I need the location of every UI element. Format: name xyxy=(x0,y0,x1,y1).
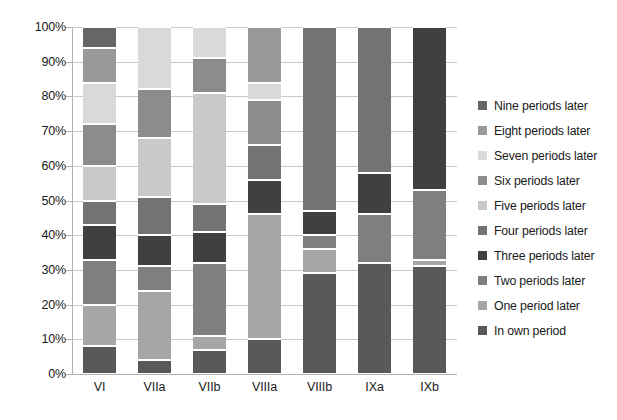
bar-segment[interactable] xyxy=(248,214,281,339)
bar-segment[interactable] xyxy=(358,214,391,263)
legend-label: Five periods later xyxy=(494,199,586,213)
legend-item[interactable]: Nine periods later xyxy=(478,93,617,118)
chart-legend: Nine periods laterEight periods laterSev… xyxy=(478,93,617,343)
y-tick-label-50: 50% xyxy=(42,194,66,208)
bar-segment[interactable] xyxy=(303,249,336,273)
bar-segment[interactable] xyxy=(83,346,116,374)
bar-segment[interactable] xyxy=(138,266,171,290)
bar-segment[interactable] xyxy=(193,336,226,350)
y-tick-label-70: 70% xyxy=(42,124,66,138)
y-tickmark-50 xyxy=(66,201,72,202)
bar-segment[interactable] xyxy=(413,266,446,374)
bar-VIIa[interactable] xyxy=(138,27,171,374)
bar-segment[interactable] xyxy=(303,273,336,374)
legend-label: Two periods later xyxy=(494,274,585,288)
bar-segment[interactable] xyxy=(303,211,336,235)
bar-segment[interactable] xyxy=(138,360,171,374)
bar-segment[interactable] xyxy=(83,201,116,225)
bar-VI[interactable] xyxy=(83,27,116,374)
y-tickmark-40 xyxy=(66,235,72,236)
bar-segment[interactable] xyxy=(193,232,226,263)
bar-segment[interactable] xyxy=(248,27,281,83)
bar-segment[interactable] xyxy=(358,173,391,215)
legend-label: Three periods later xyxy=(494,249,594,263)
bar-segment[interactable] xyxy=(193,204,226,232)
bar-segment[interactable] xyxy=(83,83,116,125)
bar-segment[interactable] xyxy=(193,350,226,374)
legend-swatch-icon xyxy=(478,176,487,185)
legend-item[interactable]: One period later xyxy=(478,293,617,318)
legend-swatch-icon xyxy=(478,301,487,310)
x-axis-tick-labels: VIVIIaVIIbVIIIaVIIIbIXaIXb xyxy=(72,380,457,406)
x-tick-label-VIIa: VIIa xyxy=(144,380,166,394)
legend-item[interactable]: Six periods later xyxy=(478,168,617,193)
x-tick-label-VIIIb: VIIIb xyxy=(307,380,332,394)
legend-item[interactable]: Two periods later xyxy=(478,268,617,293)
bar-segment[interactable] xyxy=(248,339,281,374)
bar-segment[interactable] xyxy=(303,27,336,211)
y-tickmark-30 xyxy=(66,270,72,271)
bar-segment[interactable] xyxy=(193,58,226,93)
y-tick-label-10: 10% xyxy=(42,332,66,346)
x-tick-label-VIIb: VIIb xyxy=(199,380,221,394)
bar-VIIIa[interactable] xyxy=(248,27,281,374)
legend-item[interactable]: Eight periods later xyxy=(478,118,617,143)
x-tick-label-IXb: IXb xyxy=(420,380,438,394)
y-tickmark-100 xyxy=(66,27,72,28)
bar-segment[interactable] xyxy=(83,166,116,201)
legend-item[interactable]: Seven periods later xyxy=(478,143,617,168)
y-tickmark-90 xyxy=(66,62,72,63)
bar-segment[interactable] xyxy=(193,93,226,204)
bar-segment[interactable] xyxy=(138,27,171,89)
x-tick-label-VI: VI xyxy=(94,380,106,394)
legend-swatch-icon xyxy=(478,326,487,335)
bar-segment[interactable] xyxy=(248,180,281,215)
bar-segment[interactable] xyxy=(83,48,116,83)
y-tickmark-0 xyxy=(66,374,72,375)
bar-segment[interactable] xyxy=(83,305,116,347)
legend-item[interactable]: Four periods later xyxy=(478,218,617,243)
bar-VIIb[interactable] xyxy=(193,27,226,374)
bar-segment[interactable] xyxy=(193,27,226,58)
legend-swatch-icon xyxy=(478,201,487,210)
y-tickmark-60 xyxy=(66,166,72,167)
bar-segment[interactable] xyxy=(413,190,446,259)
bar-segment[interactable] xyxy=(413,260,446,267)
bars-layer xyxy=(72,27,457,374)
bar-IXa[interactable] xyxy=(358,27,391,374)
bar-segment[interactable] xyxy=(248,83,281,100)
bar-segment[interactable] xyxy=(358,27,391,173)
x-tick-label-VIIIa: VIIIa xyxy=(252,380,277,394)
bar-IXb[interactable] xyxy=(413,27,446,374)
legend-item[interactable]: In own period xyxy=(478,318,617,343)
legend-item[interactable]: Three periods later xyxy=(478,243,617,268)
legend-swatch-icon xyxy=(478,251,487,260)
legend-swatch-icon xyxy=(478,126,487,135)
bar-segment[interactable] xyxy=(303,235,336,249)
bar-segment[interactable] xyxy=(413,27,446,190)
bar-segment[interactable] xyxy=(138,291,171,360)
bar-segment[interactable] xyxy=(83,225,116,260)
bar-segment[interactable] xyxy=(248,145,281,180)
legend-label: Four periods later xyxy=(494,224,588,238)
legend-label: In own period xyxy=(494,324,566,338)
y-tick-label-80: 80% xyxy=(42,89,66,103)
bar-segment[interactable] xyxy=(358,263,391,374)
y-tick-label-60: 60% xyxy=(42,159,66,173)
bar-segment[interactable] xyxy=(193,263,226,336)
bar-segment[interactable] xyxy=(83,260,116,305)
bar-segment[interactable] xyxy=(248,100,281,145)
y-axis-tick-labels: 0%10%20%30%40%50%60%70%80%90%100% xyxy=(18,0,66,420)
bar-segment[interactable] xyxy=(83,27,116,48)
legend-swatch-icon xyxy=(478,276,487,285)
bar-VIIIb[interactable] xyxy=(303,27,336,374)
legend-item[interactable]: Five periods later xyxy=(478,193,617,218)
bar-segment[interactable] xyxy=(138,197,171,235)
legend-swatch-icon xyxy=(478,101,487,110)
bar-segment[interactable] xyxy=(138,235,171,266)
bar-segment[interactable] xyxy=(138,89,171,138)
plot-area: 0%10%20%30%40%50%60%70%80%90%100% VIVIIa… xyxy=(0,0,470,420)
bar-segment[interactable] xyxy=(138,138,171,197)
y-tick-label-40: 40% xyxy=(42,228,66,242)
bar-segment[interactable] xyxy=(83,124,116,166)
